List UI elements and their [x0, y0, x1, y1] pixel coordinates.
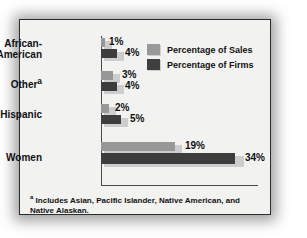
category-label-line1: Other — [11, 79, 38, 90]
category-label-line2: American — [0, 49, 42, 60]
x-axis-line — [101, 185, 258, 186]
chart-footnote: a Includes Asian, Pacific Islander, Nati… — [30, 192, 264, 216]
category-label-african-american: African- American — [0, 38, 42, 60]
footnote-text: Includes Asian, Pacific Islander, Native… — [30, 196, 240, 215]
bar-firms-african-american[interactable] — [101, 49, 117, 58]
category-label-line1: Women — [6, 152, 42, 163]
bar-value-firms-women: 34% — [245, 152, 265, 163]
category-label-hispanic: Hispanic — [0, 109, 42, 120]
legend-label-firms: Percentage of Firms — [167, 60, 254, 70]
bar-firms-other[interactable] — [101, 82, 117, 91]
bar-value-firms-hispanic: 5% — [130, 113, 144, 124]
bar-value-sales-african-american: 1% — [109, 36, 123, 47]
bar-value-sales-women: 19% — [185, 140, 205, 151]
bar-firms-hispanic[interactable] — [101, 115, 121, 124]
legend-label-sales: Percentage of Sales — [167, 45, 253, 55]
category-label-line1: Hispanic — [0, 109, 42, 120]
bar-sales-african-american[interactable] — [101, 38, 105, 47]
chart-panel: Percentage of Sales Percentage of Firms … — [19, 19, 271, 215]
category-label-other: Othera — [11, 76, 42, 90]
category-label-women: Women — [6, 152, 42, 163]
bar-sales-hispanic[interactable] — [101, 104, 109, 113]
bar-value-sales-hispanic: 2% — [115, 102, 129, 113]
legend-swatch-firms-icon — [147, 59, 160, 70]
bar-sales-women[interactable] — [101, 142, 175, 151]
category-label-line1: African- — [4, 38, 42, 49]
bar-firms-women[interactable] — [101, 153, 235, 164]
chart-legend: Percentage of Sales Percentage of Firms — [147, 43, 254, 73]
bar-sales-other[interactable] — [101, 71, 113, 80]
category-footnote-marker: a — [37, 76, 42, 86]
legend-item-firms: Percentage of Firms — [147, 58, 254, 71]
chart-figure: Percentage of Sales Percentage of Firms … — [0, 0, 307, 238]
bar-value-firms-other: 4% — [125, 80, 139, 91]
footnote-marker: a — [30, 194, 33, 200]
legend-swatch-sales-icon — [147, 44, 160, 55]
plot-area: Percentage of Sales Percentage of Firms … — [20, 20, 270, 214]
legend-item-sales: Percentage of Sales — [147, 43, 254, 56]
bar-value-sales-other: 3% — [122, 69, 136, 80]
bar-value-firms-african-american: 4% — [125, 47, 139, 58]
